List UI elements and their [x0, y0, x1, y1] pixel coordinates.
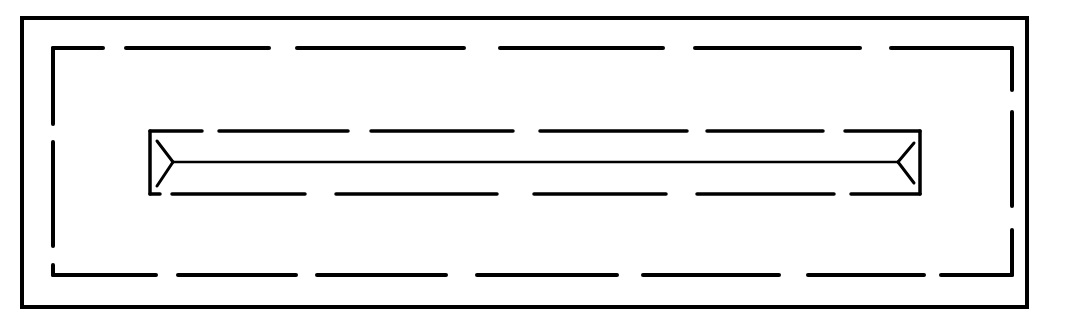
fork-arm-bottom [898, 162, 914, 183]
fork-arm-top [157, 141, 173, 162]
right-fork-icon [898, 143, 914, 183]
fork-arm-bottom [157, 162, 173, 186]
fork-arm-top [898, 143, 914, 162]
technical-line-drawing [0, 0, 1071, 329]
diagram-canvas [0, 0, 1071, 329]
left-fork-icon [157, 141, 173, 186]
